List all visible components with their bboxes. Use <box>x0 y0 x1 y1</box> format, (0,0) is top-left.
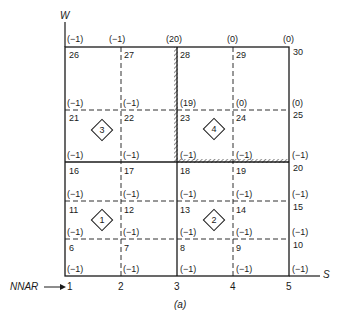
value-10: (−1) <box>292 264 308 274</box>
node-8: 8 <box>180 243 185 253</box>
node-12: 12 <box>124 205 134 215</box>
top-value-3: (20) <box>166 34 182 44</box>
tick-2: 2 <box>118 281 124 292</box>
value-13: (−1) <box>180 227 196 237</box>
top-value-5: (0) <box>283 34 294 44</box>
value-15: (−1) <box>292 227 308 237</box>
value-14: (−1) <box>236 227 252 237</box>
value-23: (19) <box>180 98 196 108</box>
value-19: (−1) <box>236 150 252 160</box>
value-7: (−1) <box>123 264 139 274</box>
value-16b: (−1) <box>67 189 83 199</box>
value-21: (−1) <box>67 98 83 108</box>
node-18: 18 <box>180 166 190 176</box>
value-17b: (−1) <box>123 189 139 199</box>
node-23: 23 <box>180 113 190 123</box>
node-19: 19 <box>236 166 246 176</box>
zone-1-label: 1 <box>95 213 109 227</box>
value-22: (−1) <box>123 98 139 108</box>
zone-2-label: 2 <box>207 213 221 227</box>
value-24: (0) <box>236 98 247 108</box>
node-26: 26 <box>69 50 79 60</box>
value-9: (−1) <box>236 264 252 274</box>
zone-3-label: 3 <box>95 123 109 137</box>
value-12: (−1) <box>123 227 139 237</box>
node-11: 11 <box>69 205 78 215</box>
node-21: 21 <box>69 113 79 123</box>
node-9: 9 <box>236 243 241 253</box>
node-15: 15 <box>293 202 303 212</box>
node-16: 16 <box>69 166 79 176</box>
value-11: (−1) <box>67 227 83 237</box>
tick-5: 5 <box>286 281 292 292</box>
caption: (a) <box>174 299 186 310</box>
node-20: 20 <box>293 163 303 173</box>
node-25: 25 <box>293 110 303 120</box>
top-value-1: (−1) <box>67 34 83 44</box>
node-28: 28 <box>180 50 190 60</box>
axis-w-label: W <box>60 10 69 21</box>
node-27: 27 <box>124 50 134 60</box>
tick-1: 1 <box>67 281 73 292</box>
value-19b: (−1) <box>236 189 252 199</box>
node-13: 13 <box>180 205 190 215</box>
node-17: 17 <box>124 166 134 176</box>
node-6: 6 <box>69 243 74 253</box>
grid-diagram <box>0 0 341 320</box>
value-20b: (−1) <box>292 189 308 199</box>
node-7: 7 <box>124 243 129 253</box>
tick-3: 3 <box>174 281 180 292</box>
node-24: 24 <box>236 113 246 123</box>
value-20: (−1) <box>292 150 308 160</box>
value-6: (−1) <box>67 264 83 274</box>
nnar-label: NNAR <box>10 281 38 292</box>
value-8: (−1) <box>180 264 196 274</box>
zone-4-label: 4 <box>207 122 221 136</box>
top-value-4: (0) <box>227 34 238 44</box>
node-29: 29 <box>236 50 246 60</box>
value-25: (0) <box>292 98 303 108</box>
value-18b: (−1) <box>180 189 196 199</box>
axis-s-label: S <box>323 269 330 280</box>
node-10: 10 <box>293 240 303 250</box>
node-30: 30 <box>293 47 303 57</box>
value-16: (−1) <box>67 150 83 160</box>
top-value-2: (−1) <box>109 34 125 44</box>
node-22: 22 <box>124 113 134 123</box>
value-18: (−1) <box>180 150 196 160</box>
node-14: 14 <box>236 205 246 215</box>
tick-4: 4 <box>230 281 236 292</box>
value-17: (−1) <box>123 150 139 160</box>
